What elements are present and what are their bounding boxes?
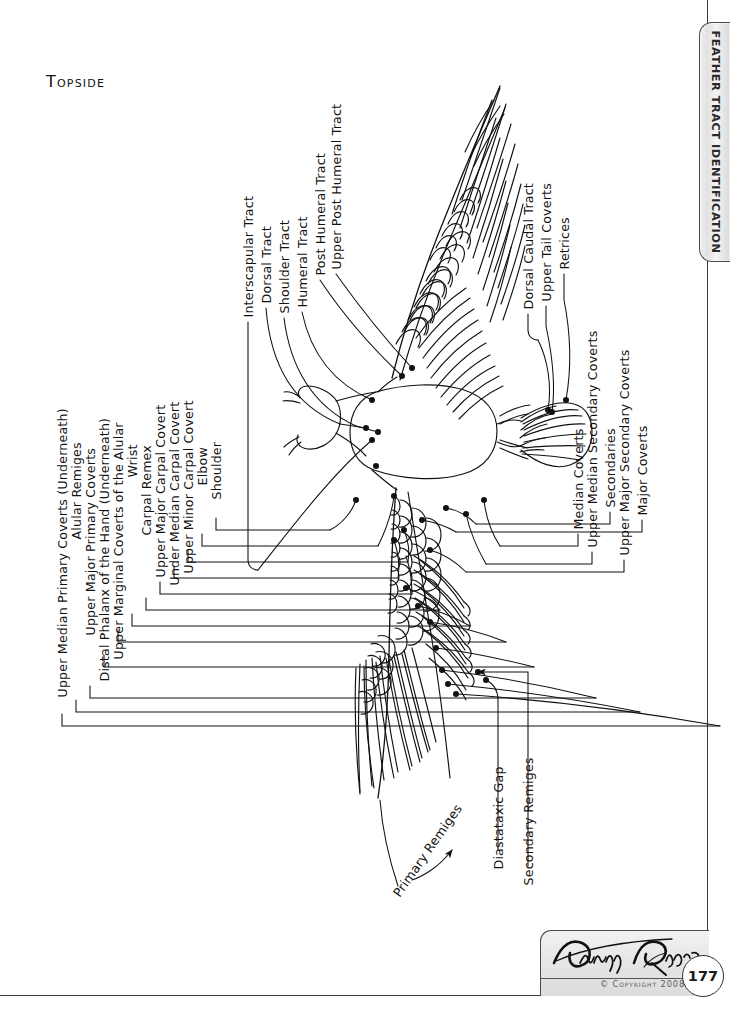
label-upper-median-secondary-coverts: Upper Median Secondary Coverts bbox=[585, 330, 600, 547]
label-secondaries: Secondaries bbox=[603, 428, 618, 507]
label-upper-major-carpal-covert: Upper Major Carpal Covert bbox=[153, 405, 168, 578]
label-median-coverts: Median Coverts bbox=[571, 429, 586, 530]
label-retrices: Retrices bbox=[557, 217, 572, 269]
label-shoulder: Shoulder bbox=[209, 442, 224, 500]
label-secondary-remiges: Secondary Remiges bbox=[521, 757, 536, 885]
label-dorsal-tract: Dorsal Tract bbox=[259, 226, 274, 303]
label-wrist: Wrist bbox=[125, 444, 140, 477]
label-alular-remiges: Alular Remiges bbox=[69, 442, 84, 539]
label-post-humeral-tract: Post Humeral Tract bbox=[313, 153, 328, 275]
label-upper-major-secondary-coverts: Upper Major Secondary Coverts bbox=[617, 350, 632, 556]
label-diastataxic-gap: Diastataxic Gap bbox=[491, 766, 506, 869]
label-interscapular-tract: Interscapular Tract bbox=[241, 196, 256, 318]
label-humeral-tract: Humeral Tract bbox=[295, 216, 310, 307]
label-carpal-remex: Carpal Remex bbox=[139, 445, 154, 535]
label-upper-tail-coverts: Upper Tail Coverts bbox=[539, 183, 554, 301]
label-upper-minor-carpal-covert: Upper Minor Carpal Covert bbox=[181, 400, 196, 573]
label-upper-post-humeral-tract: Upper Post Humeral Tract bbox=[329, 104, 344, 270]
label-major-coverts: Major Coverts bbox=[635, 426, 650, 516]
label-shoulder-tract: Shoulder Tract bbox=[277, 220, 292, 313]
label-distal-phalanx-of-the-hand: Distal Phalanx of the Hand (Underneath) bbox=[97, 418, 112, 682]
label-upper-major-primary-coverts: Upper Major Primary Coverts bbox=[83, 448, 98, 636]
label-dorsal-caudal-tract: Dorsal Caudal Tract bbox=[521, 183, 536, 309]
page-canvas: Feather Tract Identification © Copyright… bbox=[0, 0, 746, 1018]
label-under-median-carpal-covert: Under Median Carpal Covert bbox=[167, 402, 182, 586]
label-elbow: Elbow bbox=[195, 447, 210, 485]
label-upper-marginal-coverts-of-the-alular: Upper Marginal Coverts of the Alular bbox=[111, 422, 126, 659]
label-upper-median-primary-coverts: Upper Median Primary Coverts (Underneath… bbox=[55, 408, 70, 697]
